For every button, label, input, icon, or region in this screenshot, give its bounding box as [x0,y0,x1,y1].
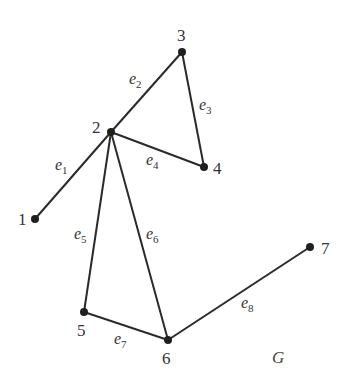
edge-label-e5: e5 [74,225,87,245]
vertex-4 [200,163,208,171]
vertex-1 [31,215,39,223]
edge-e6 [111,132,168,340]
vertex-label-5: 5 [77,321,86,340]
edge-e8 [168,247,310,340]
vertex-5 [80,308,88,316]
vertex-label-2: 2 [92,118,101,137]
vertex-3 [178,48,186,56]
edge-label-e7: e7 [114,330,127,350]
vertex-6 [164,336,172,344]
edge-label-e2: e2 [129,70,142,90]
vertex-label-4: 4 [213,159,222,178]
vertex-label-6: 6 [162,349,171,368]
edge-e2 [111,52,182,132]
edge-label-e3: e3 [199,96,212,116]
edges [35,52,310,340]
edge-label-e8: e8 [241,294,254,314]
vertex-2 [107,128,115,136]
vertex-7 [306,243,314,251]
edge-label-e1: e1 [55,156,68,176]
edge-label-e4: e4 [146,151,159,171]
graph-diagram: e1e2e3e4e5e6e7e81234567 G [0,0,342,387]
vertex-label-1: 1 [18,210,27,229]
labels: e1e2e3e4e5e6e7e81234567 [18,26,330,368]
edge-label-e6: e6 [146,225,159,245]
vertices [31,48,314,344]
vertex-label-7: 7 [321,239,330,258]
vertex-label-3: 3 [177,26,186,45]
graph-name-label: G [272,348,284,367]
edge-e7 [84,312,168,340]
